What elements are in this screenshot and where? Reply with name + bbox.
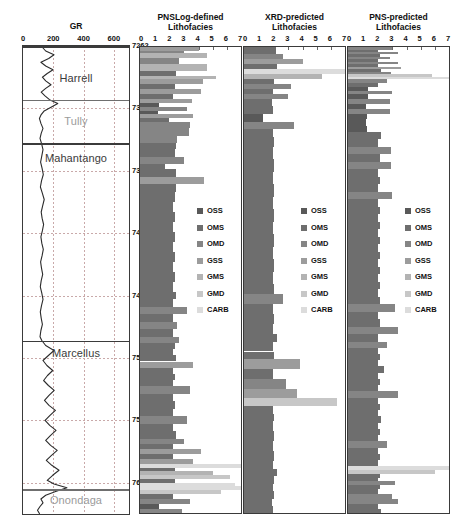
track-axis-pnslog: 01234567 (139, 33, 242, 44)
facies-bar (140, 222, 173, 232)
legend-item-gms: GMS (405, 273, 437, 281)
legend-label: GSS (311, 257, 327, 265)
facies-bar (348, 289, 378, 296)
facies-bar (140, 262, 173, 272)
facies-bar (140, 136, 177, 143)
facies-bar (140, 128, 189, 135)
legend-item-gmd: GMD (405, 290, 437, 298)
track-axis-pns: 01234567 (347, 33, 450, 44)
facies-tick-label: 2 (271, 33, 275, 44)
legend-label: CARB (311, 306, 333, 314)
facies-bar (140, 252, 175, 262)
facies-tickmark (407, 47, 408, 50)
facies-bar (140, 431, 176, 438)
track-title-pnslog: Lithofacies (139, 23, 242, 33)
facies-bar (348, 207, 380, 214)
gr-tick-label: 400 (77, 33, 90, 44)
facies-bar (140, 509, 182, 514)
facies-bar (140, 184, 176, 191)
facies-tick-label: 4 (195, 33, 199, 44)
facies-tick-label: 7 (238, 33, 242, 44)
legend-swatch-icon (405, 258, 411, 264)
legend-item-gmd: GMD (301, 290, 333, 298)
facies-bar (244, 184, 274, 196)
facies-bar (244, 334, 277, 341)
legend-label: OSS (415, 207, 431, 215)
facies-bar (244, 129, 273, 136)
gr-tick-label: 0 (21, 33, 25, 44)
track-title-pns: Lithofacies (347, 23, 450, 33)
facies-bar (244, 247, 273, 259)
legend-swatch-icon (197, 208, 203, 214)
facies-tick-label: 3 (389, 33, 393, 44)
facies-bar (348, 509, 381, 514)
facies-tick-label: 2 (375, 33, 379, 44)
facies-bar (140, 272, 175, 282)
legend-swatch-icon (405, 291, 411, 297)
legend-swatch-icon (197, 258, 203, 264)
legend-label: GMS (311, 273, 328, 281)
facies-bar (348, 327, 398, 334)
facies-bar (244, 106, 273, 115)
facies-bar (244, 272, 273, 284)
facies-tick-label: 2 (167, 33, 171, 44)
facies-tickmark (421, 47, 422, 50)
formation-top-line (23, 46, 129, 48)
facies-bar (244, 499, 272, 506)
facies-bar (348, 252, 380, 259)
facies-bar (244, 506, 273, 514)
legend-label: GMS (415, 273, 432, 281)
legend-swatch-icon (405, 241, 411, 247)
facies-bar (244, 47, 276, 54)
legend-swatch-icon (197, 307, 203, 313)
legend-item-gms: GMS (301, 273, 333, 281)
facies-bar (348, 229, 378, 236)
legend-item-omd: OMD (301, 240, 333, 248)
legend-swatch-icon (301, 291, 307, 297)
facies-tick-label: 0 (243, 33, 247, 44)
legend-label: GSS (207, 257, 223, 265)
legend-item-oms: OMS (197, 224, 229, 232)
facies-bar (140, 177, 204, 184)
facies-tick-label: 6 (432, 33, 436, 44)
facies-bar (244, 406, 273, 413)
facies-bar (244, 294, 283, 304)
facies-tick-label: 5 (418, 33, 422, 44)
legend-label: OMD (207, 240, 225, 248)
facies-tick-label: 7 (446, 33, 450, 44)
facies-bar (140, 202, 173, 212)
facies-bar (244, 352, 274, 359)
facies-bar (244, 209, 274, 221)
legend-swatch-icon (405, 274, 411, 280)
facies-bar (140, 212, 175, 222)
facies-bar (244, 414, 274, 421)
facies-bar (140, 424, 173, 431)
facies-bar (140, 416, 187, 423)
facies-bar (140, 322, 177, 329)
legend-item-omd: OMD (197, 240, 229, 248)
formation-label-onondaga: Onondaga (50, 494, 102, 506)
legend-item-oss: OSS (405, 207, 437, 215)
facies-tickmark (345, 47, 346, 50)
facies-bar (140, 169, 176, 176)
facies-bar (348, 297, 380, 304)
facies-bar (244, 451, 274, 461)
facies-bar (348, 222, 380, 229)
formation-top-line (23, 489, 129, 491)
legend-item-omd: OMD (405, 240, 437, 248)
formation-top-line (23, 143, 129, 145)
facies-bar (244, 259, 274, 271)
facies-bar (244, 314, 274, 324)
facies-bar (348, 162, 391, 169)
legend-item-gms: GMS (197, 273, 229, 281)
gr-track: HarrellTullyMahantangoMarcellusOnondaga (22, 45, 130, 515)
facies-tick-label: 7 (342, 33, 346, 44)
facies-tick-label: 5 (314, 33, 318, 44)
facies-tick-label: 6 (328, 33, 332, 44)
facies-bar (140, 157, 184, 164)
legend-item-carb: CARB (197, 306, 229, 314)
legend-item-oms: OMS (301, 224, 333, 232)
facies-bar (348, 214, 378, 221)
facies-tick-label: 6 (224, 33, 228, 44)
legend-swatch-icon (405, 208, 411, 214)
